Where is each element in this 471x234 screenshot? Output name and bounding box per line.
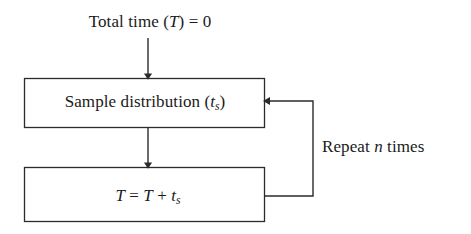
accumulate-rhs-first: T: [143, 186, 153, 205]
accumulate-total-label: T = T + ts: [115, 187, 180, 207]
initial-label-prefix: Total time (: [89, 12, 169, 31]
loop-label-variable: n: [374, 137, 383, 156]
initial-label-suffix: ) = 0: [179, 12, 212, 31]
feedback-loop-arrow: [265, 101, 313, 196]
initial-condition-label: Total time (T) = 0: [89, 13, 212, 30]
accumulate-plus: +: [153, 186, 171, 205]
loop-label-suffix: times: [383, 137, 425, 156]
flowchart-diagram: Total time (T) = 0 Sample distribution (…: [0, 0, 471, 234]
sample-label-suffix: ): [220, 92, 226, 111]
repeat-loop-label: Repeat n times: [322, 138, 424, 155]
sample-label-prefix: Sample distribution (: [65, 92, 211, 111]
sample-distribution-label: Sample distribution (ts): [65, 93, 226, 113]
accumulate-subscript: s: [176, 194, 181, 207]
initial-label-variable: T: [169, 12, 179, 31]
loop-label-prefix: Repeat: [322, 137, 374, 156]
diagram-canvas: [0, 0, 471, 234]
accumulate-lhs: T: [115, 186, 125, 205]
accumulate-equals: =: [125, 186, 143, 205]
